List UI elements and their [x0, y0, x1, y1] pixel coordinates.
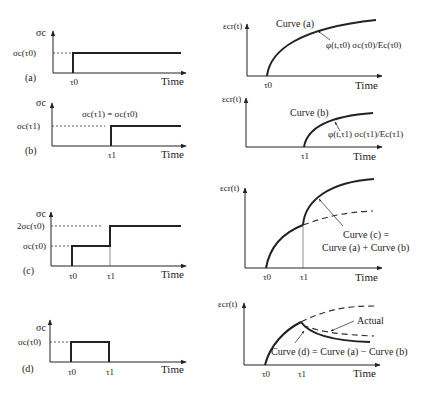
stress-history — [111, 126, 181, 146]
panel-d-strain: εcr(t) Actual Curve (d) = Curve (a) − Cu… — [218, 299, 408, 379]
annotation: σc(τ1) = σc(τ0) — [82, 109, 138, 119]
tick-label: τ0 — [70, 77, 79, 87]
y-axis-label: σc — [36, 27, 46, 38]
y-axis-label: εcr(t) — [222, 94, 241, 104]
tick-label: τ1 — [108, 150, 116, 160]
x-axis-label: Time — [353, 367, 376, 379]
tick-label: τ0 — [69, 271, 78, 281]
panel-b-strain: εcr(t) Curve (b) φ(t,τ1) σc(τ1)/Ec(τ1) τ… — [222, 94, 403, 162]
panel-label: (b) — [25, 145, 37, 157]
stress-history — [72, 226, 181, 266]
tick-label: τ1 — [298, 369, 306, 379]
x-axis-label: Time — [161, 75, 184, 87]
curve-a-segment — [266, 225, 303, 268]
x-axis-label: Time — [353, 150, 376, 162]
panel-a-stress: σc σc(τ0) (a) τ0 Time — [13, 27, 186, 87]
level-label: σc(τ0) — [18, 337, 41, 347]
level-label-upper: 2σc(τ0) — [17, 221, 44, 231]
actual-curve — [303, 325, 374, 336]
tick-label: τ1 — [107, 271, 115, 281]
x-axis-label: Time — [161, 363, 184, 375]
tick-label: τ0 — [68, 367, 77, 377]
y-axis-label: σc — [36, 208, 46, 219]
y-axis-label: εcr(t) — [218, 299, 237, 309]
panel-c-stress: σc 2σc(τ0) σc(τ0) (c) τ0 τ1 Time — [17, 208, 186, 281]
tick-label: τ1 — [301, 151, 309, 161]
x-axis-label: Time — [355, 79, 378, 91]
panel-label: (c) — [23, 265, 34, 277]
panel-c-strain: εcr(t) Curve (c) = Curve (a) + Curve (b)… — [220, 179, 409, 283]
curve-a-continuation — [303, 211, 373, 225]
tick-label: τ0 — [262, 369, 271, 379]
curve-a-segment — [265, 322, 301, 365]
y-axis-label: σc — [36, 322, 46, 333]
panel-label: (d) — [22, 363, 34, 375]
x-axis-label: Time — [161, 148, 184, 160]
stress-history — [71, 342, 109, 362]
creep-superposition-diagram: σc σc(τ0) (a) τ0 Time εcr(t) Curve (a) φ… — [0, 0, 434, 397]
curve-label: Curve (a) — [276, 18, 314, 30]
y-axis-label: σc — [36, 97, 46, 108]
panel-a-strain: εcr(t) Curve (a) φ(t,τ0) σc(τ0)/Ec(τ0) τ… — [223, 18, 401, 91]
stress-history — [73, 53, 181, 73]
x-axis-label: Time — [161, 268, 184, 280]
panel-d-stress: σc σc(τ0) (d) τ0 τ1 Time — [18, 320, 186, 377]
annotation: φ(t,τ1) σc(τ1)/Ec(τ1) — [328, 129, 403, 139]
annotation: φ(t,τ0) σc(τ0)/Ec(τ0) — [326, 40, 401, 50]
annotation-line1: Curve (c) = — [343, 229, 390, 241]
level-label: σc(τ1) — [17, 121, 40, 131]
level-label-lower: σc(τ0) — [23, 241, 46, 251]
annotation-line2: Curve (a) + Curve (b) — [322, 242, 409, 254]
annotation: Curve (d) = Curve (a) − Curve (b) — [271, 346, 408, 358]
y-axis-label: εcr(t) — [223, 21, 242, 31]
level-label: σc(τ0) — [13, 48, 36, 58]
panel-label: (a) — [25, 72, 36, 84]
x-axis-label: Time — [355, 271, 378, 283]
y-axis-label: εcr(t) — [220, 183, 239, 193]
tick-label: τ0 — [263, 272, 272, 282]
tick-label: τ1 — [106, 367, 114, 377]
tick-label: τ0 — [264, 80, 273, 90]
actual-label: Actual — [357, 315, 384, 326]
panel-b-stress: σc σc(τ1) σc(τ1) = σc(τ0) (b) τ1 Time — [17, 97, 186, 160]
tick-label: τ1 — [300, 272, 308, 282]
curve-c — [303, 179, 374, 225]
curve-label: Curve (b) — [290, 107, 329, 119]
